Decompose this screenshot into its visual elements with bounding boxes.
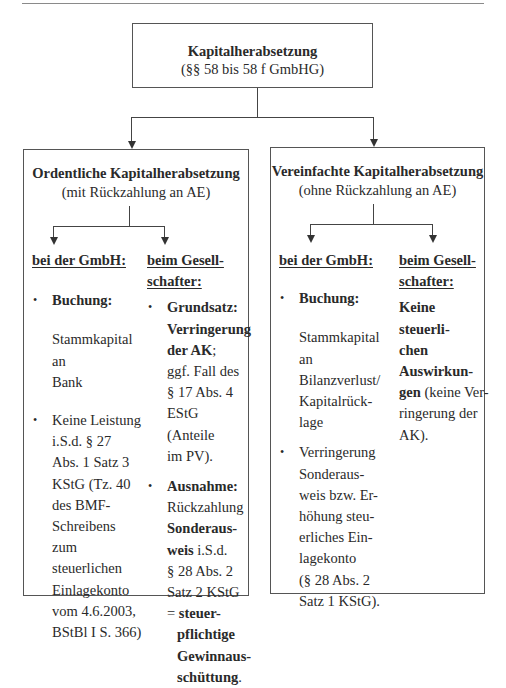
connector-root-vertical bbox=[257, 88, 258, 117]
column-header: schafter: bbox=[147, 271, 247, 292]
arrow-down-icon bbox=[50, 237, 58, 245]
node-subtitle: (ohne Rückzahlung an AE) bbox=[271, 182, 484, 199]
column-header: schafter: bbox=[399, 271, 489, 292]
result-taxable-distribution: = steuer- pflichtige Gewinnaus- schüttun… bbox=[167, 603, 247, 688]
bullet-principle: • Grundsatz: Verringerung der AK; ggf. F… bbox=[147, 297, 247, 467]
root-node-capital-reduction: Kapitalherabsetzung (§§ 58 bis 58 f GmbH… bbox=[132, 23, 373, 88]
bullet-icon: • bbox=[148, 297, 152, 318]
bullet-icon: • bbox=[148, 476, 152, 497]
connector-left-drop bbox=[131, 117, 132, 142]
column-gmbh: bei der GmbH: • Buchung: Stammkapital an… bbox=[279, 250, 391, 612]
bullet-special-account: • Verringerung Sonderaus- weis bzw. Er- … bbox=[279, 442, 391, 612]
column-header: bei der GmbH: bbox=[279, 250, 391, 271]
arrow-down-icon bbox=[307, 235, 315, 243]
column-gmbh: bei der GmbH: • Buchung: Stammkapital an… bbox=[32, 250, 144, 643]
column-header: beim Gesell- bbox=[399, 250, 489, 271]
node-title: Ordentliche Kapitalherabsetzung bbox=[24, 165, 248, 182]
node-ordinary-capital-reduction: Ordentliche Kapitalherabsetzung (mit Rüc… bbox=[23, 149, 249, 596]
root-title: Kapitalherabsetzung bbox=[133, 43, 372, 60]
column-header: beim Gesell- bbox=[147, 250, 247, 271]
no-tax-effect-note: Keine steuerli- chen Auswirkun- gen (kei… bbox=[399, 297, 489, 445]
connector-inner-horizontal bbox=[310, 224, 433, 225]
connector-inner-vertical bbox=[373, 204, 374, 224]
connector-right-drop bbox=[373, 117, 374, 140]
node-subtitle: (mit Rückzahlung an AE) bbox=[24, 184, 248, 201]
arrow-down-icon bbox=[161, 237, 169, 245]
connector-inner-horizontal bbox=[53, 226, 165, 227]
bullet-icon: • bbox=[280, 288, 284, 309]
node-title: Vereinfachte Kapitalherabsetzung bbox=[271, 163, 484, 180]
bullet-booking: • Buchung: bbox=[279, 288, 391, 309]
bullet-icon: • bbox=[280, 442, 284, 463]
connector-root-horizontal bbox=[131, 117, 374, 118]
arrow-down-icon bbox=[429, 235, 437, 243]
bullet-icon: • bbox=[33, 290, 37, 311]
bullet-exception: • Ausnahme: Rückzahlung Sonderaus- weis … bbox=[147, 476, 247, 688]
page-header-rule bbox=[22, 3, 484, 4]
column-shareholder: beim Gesell- schafter: • Grundsatz: Verr… bbox=[147, 250, 247, 688]
arrow-down-icon bbox=[128, 141, 136, 149]
booking-entry: Stammkapital an Bank bbox=[32, 329, 144, 393]
connector-inner-vertical bbox=[129, 206, 130, 226]
booking-entry: Stammkapital an Bilanzverlust/ Kapitalrü… bbox=[279, 327, 391, 433]
column-shareholder: beim Gesell- schafter: Keine steuerli- c… bbox=[399, 250, 489, 446]
node-simplified-capital-reduction: Vereinfachte Kapitalherabsetzung (ohne R… bbox=[270, 147, 485, 594]
bullet-icon: • bbox=[33, 410, 37, 431]
column-header: bei der GmbH: bbox=[32, 250, 144, 271]
root-subtitle: (§§ 58 bis 58 f GmbHG) bbox=[133, 61, 372, 78]
bullet-no-payment: • Keine Leistung i.S.d. § 27 Abs. 1 Satz… bbox=[32, 410, 144, 643]
arrow-down-icon bbox=[370, 139, 378, 147]
bullet-booking: • Buchung: bbox=[32, 290, 144, 311]
